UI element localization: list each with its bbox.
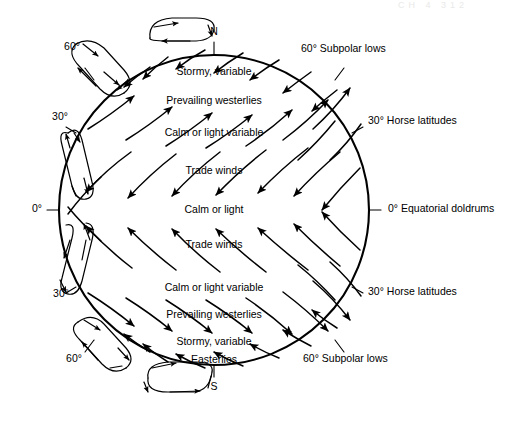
inner-band-labels: Stormy, variable Prevailing westerlies C… [165,65,264,365]
south-ferrel-cell [73,317,131,371]
latitude-label-30s-left: 30° [53,287,69,299]
north-ferrel-cell [72,41,130,96]
latitude-label-0-left: 0° [32,202,42,214]
band-label-easterlies: Easterlies [191,353,237,365]
wind-arrows-south-westerlies [88,262,361,334]
global-circulation-diagram: N S [0,0,519,421]
diagram-page: CH 4 312 N S [0,0,519,421]
annotation-subpolar-lows-s: 60° Subpolar lows [303,352,388,364]
band-label-calm-or-light-variable-n: Calm or light variable [165,126,264,138]
band-label-stormy-variable-s: Stormy, variable [176,335,251,347]
band-label-stormy-variable-n: Stormy, variable [176,65,251,77]
latitude-label-30n-left: 30° [52,110,68,122]
latitude-label-60n-left: 60° [64,40,80,52]
north-polar-cell [150,18,214,41]
band-label-trade-winds-n: Trade winds [186,164,243,176]
band-label-prevailing-westerlies-s: Prevailing westerlies [166,308,262,320]
annotation-subpolar-lows-n: 60° Subpolar lows [301,42,386,54]
annotation-equatorial-doldrums: 0° Equatorial doldrums [388,202,494,214]
band-label-prevailing-westerlies-n: Prevailing westerlies [166,94,262,106]
latitude-label-60s-left: 60° [66,352,82,364]
band-label-trade-winds-s: Trade winds [186,238,243,250]
right-annotations: 60° Subpolar lows 30° Horse latitudes 0°… [301,42,494,364]
tick-60s-right [335,340,344,352]
tick-60n-right [335,68,344,80]
annotation-horse-latitudes-n: 30° Horse latitudes [368,114,457,126]
left-latitude-labels: 60° 30° 0° 30° 60° [32,40,82,364]
band-label-calm-or-light: Calm or light [185,203,244,215]
south-pole-label: S [210,380,217,392]
annotation-horse-latitudes-s: 30° Horse latitudes [368,285,457,297]
band-label-calm-or-light-variable-s: Calm or light variable [165,281,264,293]
